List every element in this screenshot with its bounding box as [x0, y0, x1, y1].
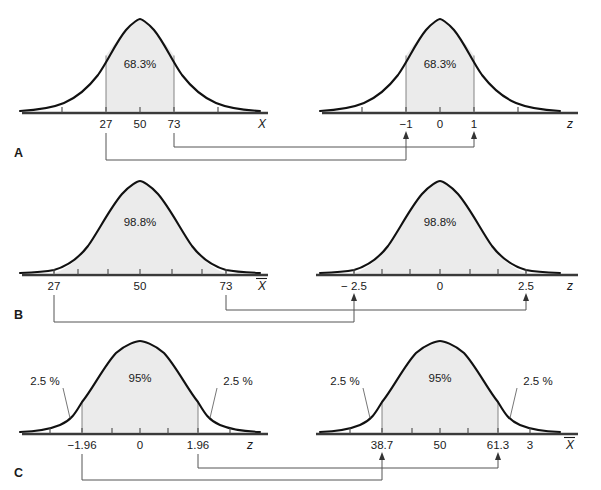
mapping-arrow-c-1 — [495, 452, 501, 460]
panel-c: 95% 2.5 % 2.5 % −1.96 0 1.96 z — [14, 341, 578, 480]
axis-symbol-c-left: z — [246, 438, 253, 452]
tick-label-a-left-0: 27 — [100, 118, 113, 130]
axis-symbol-b-left: X — [257, 279, 267, 293]
tick-label-c-left-1: 0 — [137, 439, 143, 451]
axis-symbol-a-left: X — [257, 117, 267, 131]
tail-leader-c-left-0 — [63, 388, 70, 418]
area-label-c-left: 95% — [128, 372, 151, 384]
tail-leader-c-right-1 — [510, 388, 517, 418]
mapping-arrow-b-1 — [523, 293, 529, 301]
area-label-a-right: 68.3% — [424, 58, 457, 70]
tick-label-a-left-2: 73 — [168, 118, 181, 130]
panel-letter-b: B — [14, 308, 23, 322]
tick-label-b-right-1: 0 — [437, 280, 443, 292]
axis-symbol-c-right: X — [565, 438, 575, 452]
panel-b-right-chart: 98.8% — [320, 181, 560, 273]
tick-label-c-left-2: 1.96 — [187, 439, 209, 451]
axis-symbol-b-right: z — [566, 279, 573, 293]
area-label-b-right: 98.8% — [424, 216, 457, 228]
tail-label-c-right-0: 2.5 % — [330, 375, 359, 387]
tick-label-b-left-2: 73 — [220, 280, 233, 292]
tick-label-c-left-0: −1.96 — [67, 439, 96, 451]
panel-a: 68.3% 27 50 73 X — [14, 19, 578, 160]
panel-b-left-chart: 98.8% — [20, 181, 260, 273]
tick-label-c-right-2: 61.3 — [487, 439, 509, 451]
normal-distribution-figure: 68.3% 27 50 73 X — [0, 0, 601, 490]
panel-b-mapping-connectors — [54, 293, 529, 322]
area-label-a-left: 68.3% — [124, 58, 157, 70]
tick-label-a-right-2: 1 — [471, 118, 477, 130]
tick-label-c-right-0: 38.7 — [371, 439, 393, 451]
shaded-area-95-z — [82, 341, 198, 432]
tail-leader-c-left-1 — [210, 388, 217, 418]
tick-label-b-right-0: − 2.5 — [341, 280, 367, 292]
tick-label-c-right-1: 50 — [434, 439, 447, 451]
tick-label-a-right-0: −1 — [399, 118, 412, 130]
axis-symbol-b-left-group: X — [256, 279, 267, 294]
axis-symbol-a-right: z — [566, 117, 573, 131]
tick-label-c-right-3: 3 — [527, 439, 533, 451]
panel-letter-c: C — [14, 466, 23, 480]
shaded-area-95-raw — [382, 341, 498, 432]
mapping-arrow-a-0 — [403, 131, 409, 139]
tail-label-c-left-1: 2.5 % — [223, 375, 252, 387]
tick-label-b-left-0: 27 — [48, 280, 61, 292]
panel-a-mapping-connectors — [106, 131, 477, 160]
panel-a-left-chart: 68.3% — [20, 19, 260, 111]
tail-label-c-left-0: 2.5 % — [30, 375, 59, 387]
tick-label-a-left-1: 50 — [134, 118, 147, 130]
panel-b: 98.8% 27 50 73 X — [14, 181, 578, 322]
mapping-arrow-a-1 — [471, 131, 477, 139]
mapping-arrow-b-0 — [351, 293, 357, 301]
area-label-b-left: 98.8% — [124, 216, 157, 228]
area-label-c-right: 95% — [428, 372, 451, 384]
statistics-figure: 68.3% 27 50 73 X — [0, 0, 601, 490]
tick-label-b-right-2: 2.5 — [518, 280, 534, 292]
panel-a-right-chart: 68.3% — [320, 19, 560, 111]
tail-leader-c-right-0 — [363, 388, 370, 418]
tick-label-b-left-1: 50 — [134, 280, 147, 292]
tick-label-a-right-1: 0 — [437, 118, 443, 130]
axis-symbol-c-right-group: X — [564, 438, 575, 453]
panel-letter-a: A — [14, 146, 23, 160]
mapping-arrow-c-0 — [379, 452, 385, 460]
panel-c-mapping-connectors — [82, 452, 501, 480]
tail-label-c-right-1: 2.5 % — [523, 375, 552, 387]
